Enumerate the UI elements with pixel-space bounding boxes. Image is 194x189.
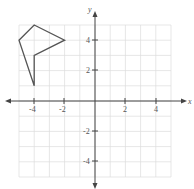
y-axis-down-arrow-icon xyxy=(93,183,98,189)
x-tick-label: 4 xyxy=(154,105,158,114)
y-tick-label: -2 xyxy=(83,127,90,136)
chart-svg: x y -4 -2 2 4 4 2 -2 -4 xyxy=(0,0,194,189)
y-axis-label: y xyxy=(87,5,92,14)
x-axis-left-arrow-icon xyxy=(5,99,11,104)
x-axis-right-arrow-icon xyxy=(181,99,187,104)
y-tick-label: 4 xyxy=(86,36,90,45)
x-tick-label: 2 xyxy=(123,105,127,114)
x-tick-label: -4 xyxy=(29,105,36,114)
coordinate-plane: x y -4 -2 2 4 4 2 -2 -4 xyxy=(0,0,194,189)
y-axis-up-arrow-icon xyxy=(93,11,98,17)
y-tick-label: -4 xyxy=(83,157,90,166)
y-tick-label: 2 xyxy=(86,66,90,75)
x-tick-label: -2 xyxy=(59,105,66,114)
x-axis-label: x xyxy=(187,97,192,106)
